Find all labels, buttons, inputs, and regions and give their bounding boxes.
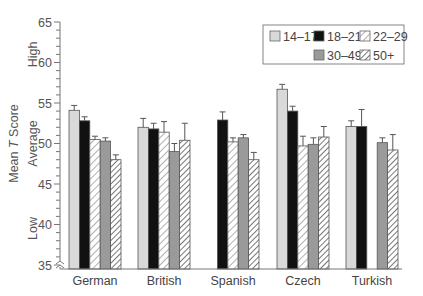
bar bbox=[319, 137, 329, 269]
bar-group-spanish bbox=[217, 112, 259, 269]
bar bbox=[100, 141, 110, 269]
legend-label: 30–49 bbox=[327, 49, 362, 63]
y-tick-label: 60 bbox=[38, 56, 52, 70]
legend-swatch bbox=[314, 31, 324, 41]
y-tick-label: 40 bbox=[38, 218, 52, 232]
y-tick-label: 65 bbox=[38, 16, 52, 30]
bars bbox=[69, 84, 398, 269]
x-category-label: British bbox=[147, 274, 182, 288]
legend-label: 18–21 bbox=[327, 30, 362, 44]
bar bbox=[249, 160, 259, 269]
bar-group-turkish bbox=[346, 109, 398, 269]
x-axis: GermanBritishSpanishCzechTurkish bbox=[60, 269, 402, 288]
bar bbox=[356, 126, 366, 269]
legend-swatch bbox=[360, 50, 370, 60]
y-axis-title: Mean T Score bbox=[7, 104, 21, 183]
bar-group-british bbox=[138, 118, 190, 269]
bar bbox=[277, 89, 287, 269]
bar bbox=[217, 120, 227, 269]
y-region-label: High bbox=[26, 42, 40, 68]
bar bbox=[308, 144, 318, 269]
bar bbox=[180, 140, 190, 269]
bar bbox=[377, 143, 387, 269]
y-axis: 35404550556065HighAverageLowMean T Score bbox=[7, 16, 64, 273]
bar bbox=[169, 152, 179, 269]
legend-swatch bbox=[314, 50, 324, 60]
bar bbox=[90, 139, 100, 269]
x-category-label: Czech bbox=[285, 274, 320, 288]
legend-label: 14–17 bbox=[283, 30, 318, 44]
legend-label: 50+ bbox=[373, 49, 394, 63]
x-category-label: German bbox=[72, 274, 117, 288]
bar bbox=[111, 160, 121, 269]
y-region-label: Low bbox=[26, 216, 40, 240]
bar bbox=[298, 146, 308, 269]
y-region-label: Average bbox=[26, 120, 40, 166]
legend: 14–1718–2122–2930–4950+ bbox=[263, 25, 408, 64]
y-tick-label: 50 bbox=[38, 137, 52, 151]
bar bbox=[69, 110, 79, 269]
bar bbox=[346, 126, 356, 269]
y-tick-label: 45 bbox=[38, 178, 52, 192]
bar bbox=[138, 127, 148, 269]
bar bbox=[148, 129, 158, 269]
y-tick-label: 35 bbox=[38, 259, 52, 273]
bar bbox=[287, 111, 297, 269]
legend-swatch bbox=[270, 31, 280, 41]
bar bbox=[388, 150, 398, 269]
bar-chart: 35404550556065HighAverageLowMean T Score… bbox=[0, 0, 423, 296]
x-category-label: Turkish bbox=[352, 274, 393, 288]
bar-group-czech bbox=[277, 84, 329, 269]
y-tick-label: 55 bbox=[38, 97, 52, 111]
bar-group-german bbox=[69, 105, 121, 269]
x-category-label: Spanish bbox=[210, 274, 255, 288]
bar bbox=[228, 142, 238, 269]
legend-swatch bbox=[360, 31, 370, 41]
bar bbox=[159, 132, 169, 269]
bar bbox=[79, 121, 89, 269]
legend-label: 22–29 bbox=[373, 30, 408, 44]
bar bbox=[238, 138, 248, 269]
